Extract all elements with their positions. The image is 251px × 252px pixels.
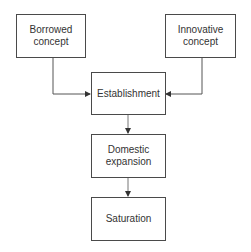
node-label: concept xyxy=(178,36,224,48)
node-label: Innovative xyxy=(178,24,224,36)
edge-innovative-establishment xyxy=(166,58,202,94)
node-establishment: Establishment xyxy=(91,72,166,115)
node-label: Saturation xyxy=(106,213,152,225)
node-label: concept xyxy=(30,36,73,48)
node-label: Borrowed xyxy=(30,24,73,36)
node-saturation: Saturation xyxy=(91,197,166,241)
edge-borrowed-establishment xyxy=(53,58,90,94)
node-label: Domestic xyxy=(106,144,152,156)
node-borrowed-concept: Borrowedconcept xyxy=(16,14,86,58)
node-label: expansion xyxy=(106,156,152,168)
node-label: Establishment xyxy=(97,88,160,100)
node-innovative-concept: Innovativeconcept xyxy=(165,14,236,58)
node-domestic-expansion: Domesticexpansion xyxy=(91,134,166,178)
